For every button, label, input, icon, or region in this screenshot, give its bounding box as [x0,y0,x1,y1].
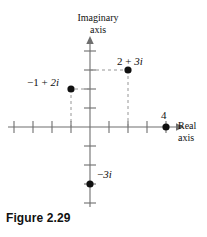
plot-area: Imaginary axis Real axis 2 + 3i −1 + 2i … [0,0,207,237]
point-label-neg1-plus-2i-operator: + [39,76,51,88]
point-marker-neg3i[interactable] [86,180,93,187]
point-label-neg3i-imaginary: 3i [103,168,112,180]
point-label-neg3i: −3i [97,169,112,180]
complex-plane-figure: Imaginary axis Real axis 2 + 3i −1 + 2i … [0,0,207,237]
point-label-2-plus-3i-operator: + [123,55,135,67]
imaginary-axis-arrowhead [86,36,93,44]
real-axis-title-line2: axis [178,132,207,144]
real-axis-title: Real axis [178,120,207,143]
point-marker-4[interactable] [162,123,169,130]
point-label-2-plus-3i: 2 + 3i [117,56,143,67]
point-label-4-value: 4 [161,109,167,121]
imaginary-axis-title: Imaginary axis [61,12,135,35]
imaginary-axis-title-line1: Imaginary [61,12,135,24]
point-label-neg1-plus-2i: −1 + 2i [27,77,59,88]
point-label-4: 4 [161,110,167,121]
point-label-2-plus-3i-imaginary: 3i [134,55,143,67]
imaginary-axis-title-line2: axis [61,24,135,36]
point-label-neg1-plus-2i-imaginary: 2i [50,76,59,88]
point-marker-2-plus-3i[interactable] [124,66,131,73]
real-axis-title-line1: Real [178,120,207,132]
figure-caption: Figure 2.29 [6,211,70,225]
point-label-neg1-plus-2i-real: −1 [27,76,39,88]
axes-and-points-graphic [0,0,207,237]
guide-lines-2-plus-3i [90,70,128,127]
point-marker-neg1-plus-2i[interactable] [67,85,74,92]
